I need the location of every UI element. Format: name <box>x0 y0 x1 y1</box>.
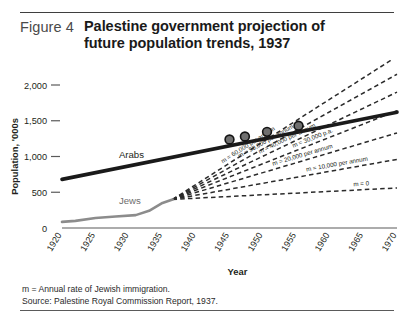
figure-title: Palestine government projection of futur… <box>84 18 325 52</box>
chart-plot-area: 05001,0001,5002,000192019251930193519401… <box>0 60 414 278</box>
x-axis-title: Year <box>228 266 248 277</box>
crossover-marker <box>241 132 250 141</box>
y-axis-tick-label: 1,500 <box>24 116 47 126</box>
figure-number: Figure 4 <box>20 18 74 35</box>
bottom-divider <box>20 310 394 311</box>
jews-series-label: Jews <box>119 195 141 206</box>
top-divider <box>20 12 394 13</box>
y-axis-tick-label: 500 <box>32 188 47 198</box>
x-axis-tick-label: 1930 <box>112 231 131 253</box>
x-axis-tick-label: 1920 <box>45 231 64 253</box>
x-axis-tick-label: 1965 <box>346 231 365 253</box>
arabs-series-line <box>62 112 397 179</box>
figure-container: Figure 4 Palestine government projection… <box>0 0 414 320</box>
figure-title-line2: future population trends, 1937 <box>84 35 325 52</box>
crossover-marker <box>294 121 303 130</box>
crossover-marker <box>225 135 234 144</box>
x-axis-tick-label: 1925 <box>78 231 97 253</box>
x-axis-tick-label: 1960 <box>313 231 332 253</box>
footnote-source: Source: Palestine Royal Commission Repor… <box>22 295 402 307</box>
x-axis-tick-label: 1970 <box>380 231 399 253</box>
population-projection-chart: 05001,0001,5002,000192019251930193519401… <box>0 60 414 278</box>
x-axis-tick-label: 1950 <box>246 231 265 253</box>
y-axis-title: Population, '000s <box>9 118 20 195</box>
x-axis-tick-label: 1935 <box>145 231 164 253</box>
x-axis-tick-label: 1955 <box>279 231 298 253</box>
y-axis-tick-label: 1,000 <box>24 152 47 162</box>
figure-header: Figure 4 Palestine government projection… <box>20 18 396 52</box>
arabs-series-label: Arabs <box>119 149 144 160</box>
y-axis-tick-label: 0 <box>42 224 47 234</box>
footnote-definition: m = Annual rate of Jewish immigration. <box>22 283 402 295</box>
x-axis-tick-label: 1940 <box>179 231 198 253</box>
jews-series-line <box>62 199 173 222</box>
crossover-marker <box>263 127 272 136</box>
footnotes-block: m = Annual rate of Jewish immigration. S… <box>22 283 402 308</box>
y-axis-tick-label: 2,000 <box>24 81 47 91</box>
projection-label: m = 0 <box>353 179 370 187</box>
figure-title-line1: Palestine government projection of <box>84 18 325 35</box>
x-axis-tick-label: 1945 <box>212 231 231 253</box>
